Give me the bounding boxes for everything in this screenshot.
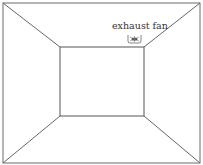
edge-top-left	[3, 3, 60, 47]
edge-bottom-right	[144, 116, 200, 163]
exhaust-fan-icon	[128, 35, 141, 43]
back-wall	[60, 47, 144, 116]
edge-bottom-left	[3, 116, 60, 163]
exhaust-fan-label: exhaust fan	[112, 20, 168, 31]
room-diagram: exhaust fan	[0, 0, 203, 165]
